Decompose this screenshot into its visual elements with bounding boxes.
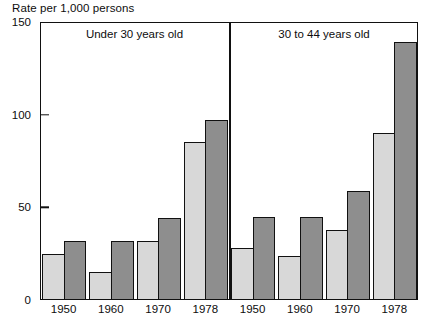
bar-panel0-1978-dark — [205, 120, 228, 300]
x-tick-label-panel0-1970: 1970 — [145, 303, 171, 315]
bar-panel0-1970-dark — [158, 218, 181, 300]
bar-panel1-1978-light — [373, 133, 396, 300]
x-tick-label-panel1-1960: 1960 — [287, 303, 313, 315]
x-tick-label-panel1-1970: 1970 — [334, 303, 360, 315]
bar-panel0-1978-light — [184, 142, 207, 300]
bar-panel0-1950-light — [42, 254, 65, 300]
bar-panel0-1960-light — [89, 272, 112, 300]
bar-panel1-1978-dark — [394, 42, 417, 300]
bar-panel0-1960-dark — [111, 241, 134, 300]
bar-panel0-1970-light — [137, 241, 160, 300]
y-tick-mark-50 — [40, 207, 49, 208]
bar-panel1-1950-light — [231, 248, 254, 300]
x-tick-label-panel0-1960: 1960 — [98, 303, 124, 315]
x-tick-label-panel0-1950: 1950 — [51, 303, 77, 315]
bar-panel0-1950-dark — [64, 241, 87, 300]
x-tick-label-panel1-1950: 1950 — [240, 303, 266, 315]
y-tick-mark-100 — [40, 114, 49, 115]
bars-layer — [0, 0, 443, 335]
chart-root: Rate per 1,000 persons Under 30 years ol… — [0, 0, 443, 335]
bar-panel1-1960-dark — [300, 217, 323, 300]
bar-panel1-1970-light — [326, 230, 349, 300]
bar-panel1-1960-light — [278, 256, 301, 300]
x-tick-label-panel1-1978: 1978 — [382, 303, 408, 315]
x-tick-label-panel0-1978: 1978 — [193, 303, 219, 315]
bar-panel1-1950-dark — [253, 217, 276, 300]
bar-panel1-1970-dark — [347, 191, 370, 300]
